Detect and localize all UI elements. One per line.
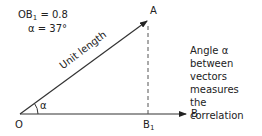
alpha-formula: α = 37° xyxy=(28,24,67,34)
correlation-vector-diagram: OB1 = 0.8 α = 37° Unit length A B O B1 α… xyxy=(0,0,262,136)
angle-arc xyxy=(35,104,39,115)
point-b1-label: B1 xyxy=(143,120,154,132)
ob1-formula: OB1 = 0.8 xyxy=(18,10,68,22)
point-o-label: O xyxy=(15,120,23,130)
caption-text: Angle α between vectors measures the cor… xyxy=(190,44,262,122)
caption-line-3: the correlation xyxy=(190,96,262,122)
angle-alpha-label: α xyxy=(40,101,47,111)
point-a-label: A xyxy=(150,6,157,16)
caption-line-1: Angle α between xyxy=(190,44,262,70)
caption-line-2: vectors measures xyxy=(190,70,262,96)
